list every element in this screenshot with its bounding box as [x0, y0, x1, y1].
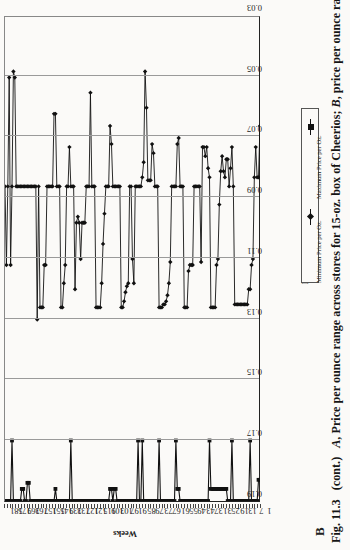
gridline: [5, 257, 259, 258]
legend-diamond-marker: [306, 212, 313, 219]
week-tick-label: 181: [5, 506, 27, 515]
diamond-marker: [231, 184, 235, 188]
gridline: [5, 196, 259, 197]
diamond-marker: [7, 75, 11, 79]
square-marker: [20, 487, 24, 491]
figure-caption: Fig. 11.3(cont.)A, Price per ounce range…: [324, 0, 348, 550]
diamond-marker: [199, 260, 203, 264]
price-tick-label: 0.13: [247, 307, 262, 317]
chart-rotated-container: 0.190.170.150.130.110.090.070.050.03 Pri…: [0, 0, 350, 544]
caption-panel-b-text: , price per ounce range: [329, 0, 343, 99]
diamond-marker: [167, 281, 171, 285]
series-svg: [5, 17, 260, 501]
price-tick-label: 0.17: [247, 428, 262, 438]
diamond-marker: [150, 142, 154, 146]
square-marker: [5, 499, 9, 501]
diamond-marker: [76, 214, 80, 218]
diamond-marker: [5, 184, 7, 188]
diamond-marker: [88, 90, 92, 94]
plot-area: [4, 16, 260, 502]
diamond-marker: [214, 263, 218, 267]
price-tick-label: 0.05: [247, 64, 262, 74]
caption-panel-b-letter: B: [329, 99, 343, 107]
diamond-marker: [63, 263, 67, 267]
diamond-marker: [99, 281, 103, 285]
series-line: [5, 441, 260, 501]
diamond-marker: [252, 175, 256, 179]
gridline: [5, 136, 259, 137]
square-marker: [209, 487, 213, 491]
diamond-marker: [8, 263, 12, 267]
gridline: [5, 75, 259, 76]
diamond-marker: [223, 175, 227, 179]
square-marker: [28, 499, 32, 501]
diamond-marker: [228, 166, 232, 170]
price-tick-label: 0.11: [247, 246, 262, 256]
diamond-marker: [5, 263, 9, 267]
caption-panel-a-text: , Price per ounce range across stores fo…: [329, 108, 343, 440]
price-tick-label: 0.09: [247, 185, 262, 195]
legend-label: Minimum Price per Oz.: [315, 220, 322, 283]
diamond-marker: [249, 263, 253, 267]
diamond-marker: [227, 184, 231, 188]
caption-cont: (cont.): [329, 457, 343, 491]
diamond-marker: [122, 299, 126, 303]
gridline: [5, 318, 259, 319]
diamond-marker: [254, 145, 258, 149]
square-marker: [115, 499, 119, 501]
diamond-marker: [141, 160, 145, 164]
square-marker: [178, 499, 182, 501]
diamond-marker: [108, 124, 112, 128]
diamond-marker: [165, 293, 169, 297]
diamond-marker: [73, 287, 77, 291]
square-marker: [111, 499, 115, 501]
diamond-marker: [140, 175, 144, 179]
gridline: [5, 439, 259, 440]
square-marker: [26, 481, 30, 485]
square-marker: [108, 487, 112, 491]
diamond-marker: [67, 145, 71, 149]
diamond-marker: [230, 145, 234, 149]
price-tick-label: 0.15: [247, 367, 262, 377]
square-marker: [257, 478, 260, 482]
diamond-marker: [217, 202, 221, 206]
square-marker: [175, 487, 179, 491]
diamond-marker: [168, 260, 172, 264]
diamond-marker: [219, 169, 223, 173]
diamond-marker: [123, 290, 127, 294]
diamond-marker: [220, 154, 224, 158]
weeks-axis-title: Weeks: [113, 529, 137, 539]
diamond-marker: [186, 269, 190, 273]
diamond-marker: [207, 175, 211, 179]
price-tick-label: 0.19: [247, 489, 262, 499]
legend-square-marker: [308, 124, 314, 130]
square-marker: [23, 499, 27, 501]
diamond-marker: [132, 281, 136, 285]
diamond-marker: [102, 211, 106, 215]
diamond-marker: [101, 242, 105, 246]
plot-wrapper: [4, 16, 260, 502]
series-maximum: [5, 439, 260, 501]
diamond-marker: [11, 69, 15, 73]
square-marker: [54, 487, 58, 491]
caption-figure-number: Fig. 11.3: [329, 499, 343, 543]
caption-panel-a-letter: A: [329, 440, 343, 448]
chart-legend: Minimum Price per Oz.Maximum Price per O…: [301, 108, 319, 283]
diamond-marker: [74, 221, 78, 225]
figure-page: 0.190.170.150.130.110.090.070.050.03 Pri…: [0, 0, 350, 550]
diamond-marker: [206, 166, 210, 170]
price-axis: 0.190.170.150.130.110.090.070.050.03: [262, 16, 296, 502]
price-tick-label: 0.07: [247, 124, 262, 134]
gridline: [5, 379, 259, 380]
square-marker: [226, 499, 230, 501]
price-tick-label: 0.03: [247, 3, 262, 13]
diamond-marker: [143, 69, 147, 73]
diamond-marker: [62, 281, 66, 285]
legend-label: Maximum Price per Oz.: [315, 135, 322, 199]
